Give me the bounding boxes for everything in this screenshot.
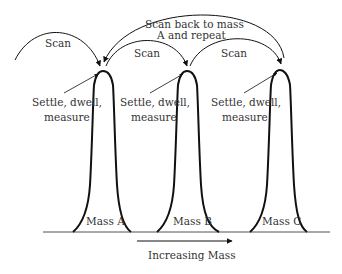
mass-a-label: Mass A xyxy=(86,215,125,227)
axis-label: Increasing Mass xyxy=(148,249,236,261)
scan-back-label-2: A and repeat xyxy=(156,29,226,41)
settle-label-c-1: Settle, dwell, xyxy=(211,96,281,108)
scan-label-b-to-c: Scan xyxy=(221,47,247,59)
scan-label-a-to-b: Scan xyxy=(134,47,160,59)
settle-label-a-2: measure xyxy=(44,111,90,123)
mass-b-label: Mass B xyxy=(173,215,212,227)
settle-label-a-1: Settle, dwell, xyxy=(32,96,102,108)
scan-label-left: Scan xyxy=(45,37,71,49)
peak-hopping-diagram: Scan Scan Scan Scan back to mass A and r… xyxy=(0,0,342,274)
settle-label-b-1: Settle, dwell, xyxy=(120,96,190,108)
settle-label-b-2: measure xyxy=(131,111,177,123)
peak-mass-c xyxy=(250,70,307,232)
settle-label-c-2: measure xyxy=(222,111,268,123)
mass-c-label: Mass C xyxy=(262,215,301,227)
